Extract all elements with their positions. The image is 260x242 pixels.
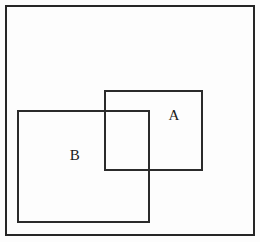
set-a-rectangle bbox=[104, 90, 203, 171]
set-b-label: B bbox=[68, 148, 82, 163]
set-a-label: A bbox=[167, 108, 181, 123]
set-diagram-canvas: A B bbox=[0, 0, 260, 242]
